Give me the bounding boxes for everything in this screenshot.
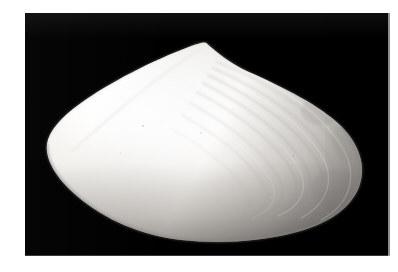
shell-specimen-illustration xyxy=(25,13,390,256)
figure-root xyxy=(0,0,398,272)
figure-caption xyxy=(0,258,398,272)
shell-posteroventral-shadow xyxy=(311,169,363,209)
photograph-plate xyxy=(25,13,390,256)
